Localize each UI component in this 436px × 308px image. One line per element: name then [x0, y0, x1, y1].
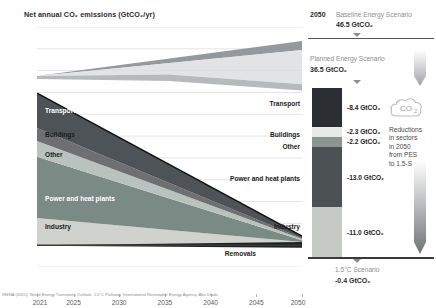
reduction-label-industry: -11.0 GtCO₂: [347, 229, 384, 236]
planned-caret-icon: [353, 80, 361, 84]
planned-scenario-value: 36.5 GtCO₂: [310, 66, 347, 73]
area-label-power-and-heat-plants: Power and heat plants: [45, 195, 115, 202]
co2-cloud-icon: CO 2: [389, 96, 423, 120]
source-attribution: IRENA (2021), World Energy Transitions O…: [2, 292, 218, 297]
right-label-power-and-heat-plants: Power and heat plants: [230, 175, 300, 182]
xtick-2021: 2021: [33, 299, 48, 306]
xtick-2030: 2030: [112, 299, 127, 306]
reduction-segment-buildings: [312, 127, 342, 138]
right-label-industry: Industry: [274, 223, 300, 230]
target-scenario-label: 1.5°C Scenario: [335, 266, 379, 273]
down-arrow-upper-icon: [408, 50, 432, 88]
area-label-transport: Transport: [45, 107, 75, 114]
reduction-segment-industry: [312, 207, 342, 257]
planned-scenario-label: Planned Energy Scenario: [310, 55, 385, 62]
reduction-segment-other: [312, 137, 342, 147]
reduction-label-power-and-heat-plants: -13.0 GtCO₂: [347, 174, 384, 181]
right-label-removals: Removals: [225, 250, 256, 257]
co2-icon-subscript: 2: [414, 108, 417, 114]
xtick-2035: 2035: [158, 299, 173, 306]
baseline-scenario-label: Baseline Energy Scenario: [336, 11, 412, 18]
co2-icon-text: CO: [400, 104, 412, 113]
xtick-2050: 2050: [291, 299, 306, 306]
xtick-2045: 2045: [249, 299, 264, 306]
stacked-area-svg: [37, 27, 302, 267]
target-scenario-value: -0.4 GtCO₂: [335, 277, 370, 284]
panel-year-label: 2050: [310, 11, 326, 18]
reduction-segment-transport: [312, 88, 342, 127]
reduction-segment-power-and-heat-plants: [312, 147, 342, 207]
target-rule: [308, 257, 434, 259]
baseline-scenario-value: 46.5 GtCO₂: [336, 21, 373, 28]
reduction-label-other: -2.2 GtCO₂: [347, 138, 380, 145]
down-arrow-lower-icon: [408, 160, 432, 256]
baseline-rule: [308, 38, 434, 39]
right-label-transport: Transport: [270, 100, 300, 107]
plot-area: 50 45 40 35 30 25 20 15 10 5 0 -5 2021 2…: [37, 27, 302, 267]
area-label-industry: Industry: [45, 223, 71, 230]
scenario-panel: 2050 Baseline Energy Scenario 46.5 GtCO₂…: [305, 0, 436, 308]
area-label-other: Other: [45, 151, 63, 158]
baseline-caret-icon: [353, 33, 361, 37]
right-label-other: Other: [282, 143, 300, 150]
reduction-stacked-bar: [312, 88, 342, 257]
xtick-2040: 2040: [203, 299, 218, 306]
chart-root: Net annual CO₂ emissions (GtCO₂/yr): [0, 0, 436, 308]
reduction-label-transport: -8.4 GtCO₂: [347, 104, 380, 111]
page-title: Net annual CO₂ emissions (GtCO₂/yr): [24, 10, 155, 19]
reduction-label-buildings: -2.3 GtCO₂: [347, 128, 380, 135]
xtick-2025: 2025: [66, 299, 81, 306]
right-label-buildings: Buildings: [270, 131, 300, 138]
area-label-buildings: Buildings: [45, 131, 75, 138]
target-caret-icon: [353, 259, 361, 263]
